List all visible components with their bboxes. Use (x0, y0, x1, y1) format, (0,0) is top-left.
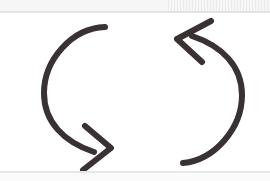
recycle-arrows-icon (0, 0, 270, 181)
scan-band-bottom (0, 173, 270, 181)
left-arc-arrow (44, 27, 111, 170)
image-canvas (0, 0, 270, 181)
right-arc-arrow (177, 21, 242, 163)
